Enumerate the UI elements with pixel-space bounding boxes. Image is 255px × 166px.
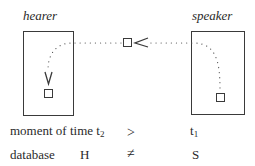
hearer-square-icon xyxy=(45,90,53,98)
dotted-path-speaker xyxy=(150,43,220,88)
speaker-label: speaker xyxy=(192,9,232,22)
arrow-left-icon xyxy=(135,38,148,47)
database-label: database xyxy=(10,148,55,161)
diagram-canvas xyxy=(0,0,255,166)
hearer-box xyxy=(24,32,74,116)
not-equal-relation: ≠ xyxy=(127,147,135,161)
message-square-icon xyxy=(124,39,132,47)
speaker-database-s: S xyxy=(192,148,199,161)
arrow-down-icon xyxy=(45,72,52,84)
hearer-label: hearer xyxy=(23,9,57,22)
dotted-path-hearer xyxy=(48,43,121,70)
speaker-square-icon xyxy=(217,94,225,102)
hearer-database-h: H xyxy=(80,148,89,161)
speaker-box xyxy=(192,32,245,115)
t1-value: t1 xyxy=(190,124,198,137)
greater-than-relation: > xyxy=(127,126,135,140)
moment-of-time-label: moment of time t2 xyxy=(10,124,104,137)
